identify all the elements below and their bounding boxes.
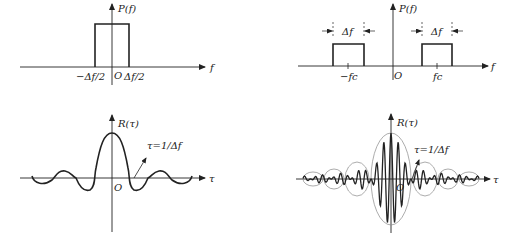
bandwidth-label-left: Δf [341,26,355,37]
x-axis-label: τ [209,173,215,184]
bandwidth-label-right: Δf [430,26,444,37]
tick-label-right: fc [432,71,443,82]
baseband-autocorr-panel: R(τ) τ O τ=1/Δf [20,115,215,232]
x-axis-label: f [209,62,216,73]
y-axis-label: P(f) [398,3,417,14]
origin-label: O [394,70,402,81]
annotation-label: τ=1/Δf [414,144,451,155]
rect-spectrum-left [333,44,364,66]
y-axis-label: R(τ) [396,117,418,128]
annotation-label: τ=1/Δf [147,140,184,151]
tick-label-right: Δf/2 [123,71,145,82]
y-axis-label: R(τ) [117,118,139,129]
tick-label-left: −fc [340,71,358,82]
annotation-arrow [134,158,146,178]
rect-spectrum-right [422,44,452,66]
origin-label: O [114,182,122,193]
tick-label-left: −Δf/2 [76,71,105,82]
diagram-canvas: P(f) f O −Δf/2 Δf/2 P(f) f O −fc fc Δf Δ… [0,0,507,237]
x-axis-label: τ [493,174,499,185]
origin-label: O [114,70,122,81]
x-axis-label: f [490,61,497,72]
y-axis-label: P(f) [117,3,136,14]
bandpass-autocorr-panel: R(τ) τ O τ=1/Δf [296,114,499,233]
baseband-psd-panel: P(f) f O −Δf/2 Δf/2 [20,3,216,85]
origin-label: O [396,182,404,193]
bandpass-psd-panel: P(f) f O −fc fc Δf Δf [298,3,497,82]
